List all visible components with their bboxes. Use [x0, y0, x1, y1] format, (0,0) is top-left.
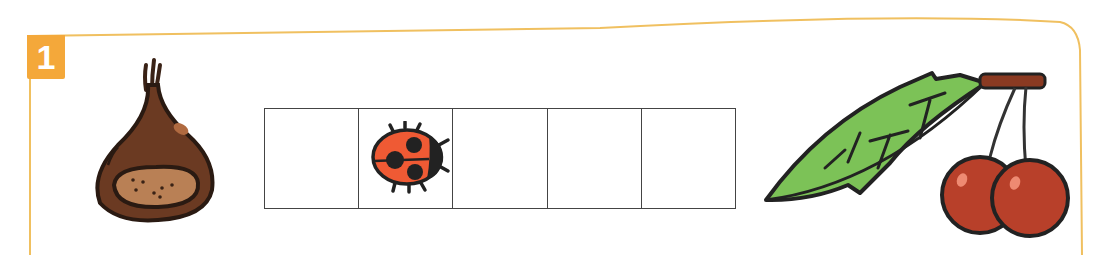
grid-cell-1[interactable] — [265, 109, 359, 208]
chestnut-icon — [88, 55, 220, 225]
grid-cell-4[interactable] — [548, 109, 642, 208]
cherries-icon — [760, 65, 1070, 240]
grid-cell-3[interactable] — [453, 109, 547, 208]
grid-cell-5[interactable] — [642, 109, 735, 208]
grid-cell-2[interactable] — [359, 109, 453, 208]
ladybug-icon — [365, 121, 455, 196]
sequence-grid — [264, 108, 736, 209]
exercise-number-badge: 1 — [27, 35, 65, 79]
